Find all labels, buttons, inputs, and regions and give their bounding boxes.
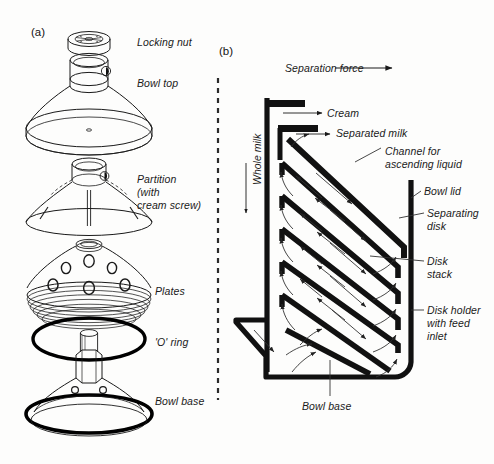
- label-disk-stack-line2: stack: [427, 268, 452, 280]
- disk-holder: [282, 295, 390, 374]
- label-cream: Cream: [327, 107, 359, 119]
- panel-a-artwork: [26, 32, 152, 437]
- separated-milk-outlet: [278, 125, 318, 132]
- label-plates: Plates: [155, 285, 185, 297]
- separating-disk: [282, 163, 398, 278]
- bowl-base-part: [26, 330, 152, 436]
- panel-b-tag: (b): [219, 45, 233, 57]
- partition-part: [26, 158, 152, 236]
- label-locking-nut: Locking nut: [137, 36, 192, 48]
- label-separating-disk-line2: disk: [427, 220, 446, 232]
- label-partition-line1: Partition: [137, 173, 176, 185]
- label-partition-line2: (with: [137, 186, 160, 198]
- plates-part: [27, 239, 151, 328]
- cream-outlet: [267, 100, 305, 107]
- panel-a-tag: (a): [31, 26, 45, 38]
- label-bowl-base-a: Bowl base: [155, 395, 204, 407]
- label-bowl-top: Bowl top: [137, 77, 178, 89]
- label-bowl-base-b: Bowl base: [302, 400, 351, 412]
- label-bowl-lid: Bowl lid: [424, 185, 461, 197]
- label-o-ring: 'O' ring: [155, 336, 188, 348]
- label-disk-holder-line2: with feed: [427, 317, 470, 329]
- label-channel-line2: ascending liquid: [385, 158, 462, 170]
- label-separated-milk: Separated milk: [336, 127, 407, 139]
- o-ring-part: [33, 318, 145, 360]
- label-disk-holder-line3: inlet: [427, 330, 447, 342]
- separator-figure: (a) (b) Locking nut Bowl top Partition (…: [0, 0, 494, 464]
- label-separating-disk-line1: Separating: [427, 207, 479, 219]
- figure-artwork: [0, 0, 494, 464]
- bowl-top-part: [26, 53, 152, 155]
- label-partition-line3: cream screw): [137, 199, 201, 211]
- label-disk-holder-line1: Disk holder: [427, 304, 481, 316]
- label-disk-stack-line1: Disk: [427, 255, 448, 267]
- locking-nut-part: [68, 32, 110, 56]
- label-separation-force: Separation force: [285, 62, 364, 74]
- label-whole-milk: Whole milk: [251, 134, 263, 185]
- label-channel-line1: Channel for: [385, 145, 440, 157]
